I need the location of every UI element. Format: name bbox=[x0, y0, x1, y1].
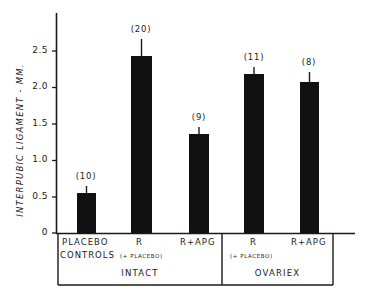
category-label-r-intact: R bbox=[136, 237, 143, 247]
group-label-ovariex: OVARIEX bbox=[222, 268, 333, 278]
category-label-placebo: PLACEBO bbox=[62, 237, 108, 247]
y-tick-label: 2.0 bbox=[22, 81, 48, 91]
bar-intact-r-placebo bbox=[131, 56, 152, 233]
bar-placebo-controls bbox=[77, 193, 96, 233]
category-label-r-ovariex: R bbox=[250, 237, 257, 247]
bar-intact-r-apg bbox=[189, 134, 209, 233]
sample-size-label: (20) bbox=[121, 24, 161, 34]
bar-ovariex-r-placebo bbox=[244, 74, 264, 233]
category-label-r-apg-ovariex: R+APG bbox=[291, 237, 327, 247]
sample-size-label: (9) bbox=[179, 112, 219, 122]
bar-ovariex-r-apg bbox=[300, 82, 319, 233]
category-sublabel-placebo-ovariex: (+ PLACEBO) bbox=[230, 253, 273, 259]
sample-size-label: (8) bbox=[289, 57, 329, 67]
y-tick-label: 1.0 bbox=[22, 154, 48, 164]
y-tick-label: 0.5 bbox=[22, 191, 48, 201]
group-label-intact: INTACT bbox=[58, 268, 222, 278]
category-label-controls: CONTROLS bbox=[60, 250, 115, 260]
sample-size-label: (10) bbox=[66, 171, 106, 181]
chart-plot-area bbox=[0, 0, 368, 297]
bars bbox=[77, 56, 319, 233]
bar-chart: INTERPUBIC LIGAMENT - MM. 0 0.5 1.0 1.5 … bbox=[0, 0, 368, 297]
category-sublabel-placebo-intact: (+ PLACEBO) bbox=[120, 253, 163, 259]
y-tick-label: 1.5 bbox=[22, 118, 48, 128]
y-tick-label: 0 bbox=[22, 227, 48, 237]
sample-size-label: (11) bbox=[234, 52, 274, 62]
category-label-r-apg-intact: R+APG bbox=[180, 237, 216, 247]
y-tick-label: 2.5 bbox=[22, 45, 48, 55]
